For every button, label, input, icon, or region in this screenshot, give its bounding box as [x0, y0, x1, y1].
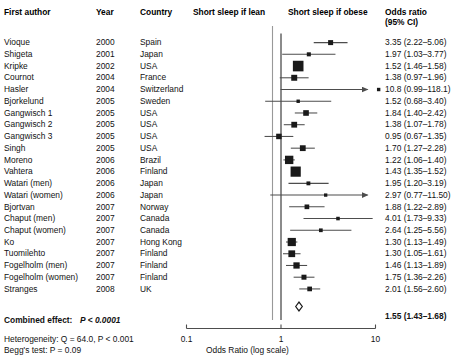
heterogeneity-line: Heterogeneity: Q = 64.0, P < 0.001 — [4, 334, 134, 345]
study-country: Finland — [140, 248, 167, 259]
column-header-year: Year — [96, 7, 114, 17]
study-author: Ko — [4, 237, 14, 248]
axis-tick-label: 0.1 — [180, 334, 194, 344]
study-year: 2006 — [96, 166, 115, 177]
study-country: Switzerland — [140, 84, 183, 95]
study-odds-ratio: 1.52 (0.68–3.40) — [385, 96, 446, 107]
study-odds-ratio: 1.84 (1.40–2.42) — [385, 108, 446, 119]
study-country: Canada — [140, 225, 169, 236]
study-country: Japan — [140, 178, 163, 189]
study-odds-ratio: 1.75 (1.36–2.26) — [385, 272, 446, 283]
study-marker-square — [291, 167, 301, 177]
study-marker-square — [276, 134, 281, 139]
study-marker-square — [328, 40, 333, 45]
study-author: Bjorkelund — [4, 96, 44, 107]
study-year: 2004 — [96, 72, 115, 83]
study-year: 2002 — [96, 61, 115, 72]
study-author: Gangwisch 2 — [4, 119, 52, 130]
study-year: 2007 — [96, 272, 115, 283]
study-odds-ratio: 2.97 (0.77–11.50) — [385, 190, 451, 201]
study-odds-ratio: 1.22 (1.06–1.40) — [385, 155, 446, 166]
study-marker-square — [307, 52, 311, 56]
study-year: 2005 — [96, 108, 115, 119]
study-country: Canada — [140, 213, 169, 224]
study-author: Kripke — [4, 61, 28, 72]
study-odds-ratio: 1.38 (0.97–1.96) — [385, 72, 446, 83]
study-year: 2006 — [96, 178, 115, 189]
study-country: USA — [140, 119, 157, 130]
study-odds-ratio: 1.38 (1.07–1.78) — [385, 119, 446, 130]
study-author: Watari (women) — [4, 190, 63, 201]
study-author: Fogelholm (men) — [4, 260, 67, 271]
study-marker-square — [303, 110, 309, 116]
study-odds-ratio: 1.70 (1.27–2.28) — [385, 143, 446, 154]
axis-tick-label: 1 — [274, 334, 288, 344]
study-odds-ratio: 1.95 (1.20–3.19) — [385, 178, 446, 189]
study-country: Japan — [140, 49, 163, 60]
study-author: Tuomilehto — [4, 248, 45, 259]
study-odds-ratio: 1.97 (1.03–3.77) — [385, 49, 446, 60]
study-marker-square — [377, 88, 380, 91]
study-marker-square — [285, 156, 293, 164]
study-odds-ratio: 3.35 (2.22–5.06) — [385, 37, 446, 48]
study-country: Brazil — [140, 155, 161, 166]
study-year: 2007 — [96, 202, 115, 213]
combined-effect-label: Combined effect: — [4, 315, 72, 325]
study-year: 2005 — [96, 119, 115, 130]
summary-diamond — [296, 302, 303, 311]
study-odds-ratio: 10.8 (0.99–118.1) — [385, 84, 451, 95]
column-header-short-sleep-obese: Short sleep if obese — [288, 7, 368, 17]
study-author: Chaput (men) — [4, 213, 55, 224]
study-odds-ratio: 2.64 (1.25–5.56) — [385, 225, 446, 236]
study-year: 2007 — [96, 213, 115, 224]
study-marker-square — [288, 238, 296, 246]
study-marker-square — [291, 75, 297, 81]
combined-effect-line: Combined effect: P < 0.0001 — [4, 315, 121, 326]
study-odds-ratio: 0.95 (0.67–1.35) — [385, 131, 446, 142]
study-author: Hasler — [4, 84, 28, 95]
study-odds-ratio: 1.52 (1.46–1.58) — [385, 61, 446, 72]
study-author: Fogelholm (women) — [4, 272, 78, 283]
study-country: Norway — [140, 202, 168, 213]
study-marker-square — [296, 100, 299, 103]
study-author: Shigeta — [4, 49, 32, 60]
study-country: USA — [140, 108, 157, 119]
study-country: Sweden — [140, 96, 170, 107]
study-country: Finland — [140, 272, 167, 283]
study-year: 2000 — [96, 37, 115, 48]
study-year: 2008 — [96, 284, 115, 295]
study-marker-square — [293, 61, 304, 72]
column-header-country: Country — [140, 7, 172, 17]
study-marker-square — [306, 181, 310, 185]
study-marker-square — [300, 145, 306, 151]
study-odds-ratio: 1.46 (1.13–1.89) — [385, 260, 446, 271]
study-author: Bjortvan — [4, 202, 35, 213]
forest-plot-figure: First author Year Country Short sleep if… — [0, 0, 471, 358]
study-year: 2001 — [96, 49, 115, 60]
study-odds-ratio: 1.30 (1.05–1.61) — [385, 248, 446, 259]
study-country: Spain — [140, 37, 161, 48]
study-author: Vahtera — [4, 166, 33, 177]
combined-effect-pvalue: P < 0.0001 — [80, 315, 120, 325]
study-author: Chaput (women) — [4, 225, 66, 236]
axis-title: Odds Ratio (log scale) — [206, 345, 289, 355]
study-author: Moreno — [4, 155, 32, 166]
study-odds-ratio: 1.88 (1.22–2.89) — [385, 202, 446, 213]
study-marker-square — [307, 287, 312, 292]
column-header-confidence-interval: (95% CI) — [385, 17, 418, 27]
study-marker-square — [291, 122, 297, 128]
study-country: UK — [140, 284, 152, 295]
study-odds-ratio: 4.01 (1.73–9.33) — [385, 213, 446, 224]
axis-tick-label: 10 — [369, 334, 383, 344]
study-marker-square — [305, 204, 310, 209]
study-year: 2007 — [96, 237, 115, 248]
study-year: 2005 — [96, 143, 115, 154]
study-country: USA — [140, 131, 157, 142]
study-author: Singh — [4, 143, 25, 154]
begg-test-line: Begg's test: P = 0.09 — [4, 345, 81, 356]
study-year: 2004 — [96, 84, 115, 95]
study-year: 2007 — [96, 260, 115, 271]
study-marker-square — [319, 228, 323, 232]
study-year: 2007 — [96, 225, 115, 236]
study-year: 2006 — [96, 155, 115, 166]
